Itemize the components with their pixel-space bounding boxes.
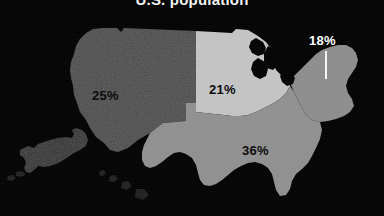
page-title: U.S. population <box>0 0 384 8</box>
region-label-midwest: 21% <box>209 83 236 97</box>
region-label-south: 36% <box>242 144 269 158</box>
region-label-northeast: 18% <box>309 34 336 48</box>
map-figure: U.S. population 25% 21% 36% 18% <box>0 0 384 216</box>
callout-leader-line-northeast <box>325 51 327 79</box>
region-label-west: 25% <box>92 89 119 103</box>
